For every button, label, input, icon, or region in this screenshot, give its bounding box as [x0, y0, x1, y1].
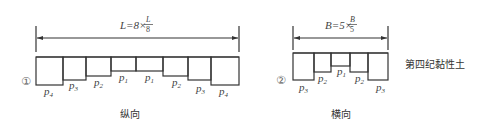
caption-longitudinal: 纵向 — [120, 108, 140, 120]
label-p1: p1 — [118, 71, 128, 85]
foundation-pressure-diagram: L=8× L 8 B=5× B 5 ① ② p4 p3 p2 p1 p1 p2 … — [0, 0, 494, 123]
arrow-right-icon — [232, 36, 238, 40]
soil-label: 第四纪黏性土 — [405, 58, 465, 70]
formula-transverse-den: 5 — [350, 25, 354, 34]
segment-p3-right — [188, 57, 211, 80]
segment-p2-left — [86, 57, 111, 76]
label-p4: p4 — [218, 85, 229, 99]
label-p2-t: p2 — [354, 72, 365, 86]
label-p3: p3 — [68, 79, 79, 93]
formula-longitudinal-num: L — [145, 15, 151, 24]
segment-p3-left — [63, 57, 86, 80]
label-p3: p3 — [195, 82, 206, 96]
segment-p4-right — [211, 57, 239, 85]
label-p4: p4 — [43, 85, 54, 99]
formula-transverse-num: B — [350, 15, 355, 24]
marker-1: ① — [21, 75, 31, 88]
label-p1-t: p1 — [336, 65, 346, 79]
formula-longitudinal-prefix: L=8× — [119, 19, 146, 31]
caption-transverse: 横向 — [331, 108, 351, 120]
arrow-right-icon-2 — [381, 36, 387, 40]
arrow-left-icon — [37, 36, 43, 40]
label-p2-t: p2 — [317, 72, 328, 86]
segment-p2-right-2 — [350, 53, 368, 72]
segment-p4-left — [36, 57, 63, 85]
label-p2: p2 — [93, 76, 104, 90]
label-p3-t: p3 — [375, 81, 386, 95]
segment-p2-right — [163, 57, 188, 76]
label-p3-t: p3 — [298, 81, 309, 95]
label-p1: p1 — [144, 71, 154, 85]
segment-p2-left-2 — [314, 53, 331, 72]
formula-transverse-prefix: B=5× — [325, 19, 352, 31]
formula-longitudinal-den: 8 — [146, 25, 150, 34]
label-p2: p2 — [171, 76, 182, 90]
segment-p3-left-2 — [293, 53, 314, 80]
arrow-left-icon-2 — [294, 36, 300, 40]
segment-p1-right — [136, 57, 163, 71]
segment-p1-left — [111, 57, 136, 71]
segment-p3-right-2 — [368, 53, 388, 80]
marker-2: ② — [276, 74, 286, 87]
